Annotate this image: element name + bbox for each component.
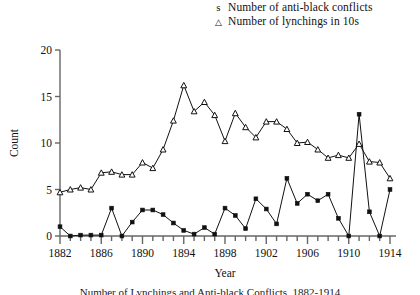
- open-triangle-marker: [160, 147, 166, 152]
- open-triangle-marker: [150, 165, 156, 170]
- y-axis-title: Count: [8, 128, 20, 157]
- x-axis-title: Year: [214, 267, 235, 279]
- x-axis: 188218861890189418981902190619101914: [49, 236, 402, 259]
- x-tick-label: 1894: [172, 247, 195, 259]
- square-marker-s: [295, 202, 299, 206]
- square-marker-s: [213, 232, 217, 236]
- square-marker-s: [368, 210, 372, 214]
- y-tick-label: 15: [41, 91, 53, 103]
- square-marker-s: [68, 234, 72, 238]
- square-marker-s: [99, 233, 103, 237]
- square-marker-s: [120, 234, 124, 238]
- open-triangle-marker: [336, 152, 342, 157]
- y-tick-label: 20: [41, 44, 53, 56]
- open-triangle-marker: [78, 185, 84, 190]
- square-marker-s: [192, 232, 196, 236]
- open-triangle-marker: [202, 99, 208, 104]
- x-tick-label: 1906: [296, 247, 319, 259]
- y-axis: 05101520: [41, 44, 61, 242]
- figure-caption: Number of Lynchings and Anti-black Confl…: [0, 286, 420, 295]
- square-marker-s: [244, 227, 248, 231]
- square-marker-s: [161, 213, 165, 217]
- square-marker-s: [388, 188, 392, 192]
- square-marker-s: [141, 208, 145, 212]
- square-marker-s: [89, 233, 93, 237]
- square-marker-s: [357, 112, 361, 116]
- y-tick-label: 0: [46, 230, 52, 242]
- square-marker-s: [233, 214, 237, 218]
- square-marker-s: [223, 206, 227, 210]
- square-marker-s: [378, 234, 382, 238]
- square-marker-s: [110, 206, 114, 210]
- x-tick-label: 1890: [131, 247, 154, 259]
- square-marker-s: [79, 233, 83, 237]
- square-marker-s: [275, 222, 279, 226]
- square-marker-s: [337, 216, 341, 220]
- open-triangle-marker: [387, 175, 393, 180]
- chart-figure: s Number of anti-black conflicts △ Numbe…: [0, 0, 420, 295]
- square-marker-s: [316, 199, 320, 203]
- y-tick-label: 5: [46, 184, 52, 196]
- open-triangle-marker: [315, 147, 321, 152]
- open-triangle-marker: [98, 170, 104, 175]
- square-marker-s: [182, 229, 186, 233]
- x-tick-label: 1882: [49, 247, 72, 259]
- square-marker-s: [203, 226, 207, 230]
- x-tick-label: 1914: [379, 247, 402, 259]
- square-marker-s: [58, 225, 62, 229]
- open-triangle-marker: [263, 119, 269, 124]
- x-tick-label: 1902: [255, 247, 278, 259]
- chart-plot-area: 05101520 1882188618901894189819021906191…: [0, 0, 420, 295]
- x-tick-label: 1910: [337, 247, 360, 259]
- y-tick-label: 10: [41, 137, 53, 149]
- square-marker-s: [326, 192, 330, 196]
- square-marker-s: [254, 197, 258, 201]
- data-series-group: [57, 82, 393, 238]
- square-marker-s: [172, 221, 176, 225]
- square-marker-s: [285, 176, 289, 180]
- square-marker-s: [130, 220, 134, 224]
- open-triangle-marker: [140, 160, 146, 165]
- open-triangle-marker: [284, 126, 290, 131]
- x-tick-label: 1886: [90, 247, 113, 259]
- square-marker-s: [347, 234, 351, 238]
- open-triangle-marker: [222, 138, 228, 143]
- square-marker-s: [306, 192, 310, 196]
- open-triangle-marker: [171, 118, 177, 123]
- open-triangle-marker: [232, 110, 238, 115]
- open-triangle-marker: [181, 82, 187, 87]
- square-marker-s: [151, 208, 155, 212]
- square-marker-s: [264, 207, 268, 211]
- x-tick-label: 1898: [214, 247, 237, 259]
